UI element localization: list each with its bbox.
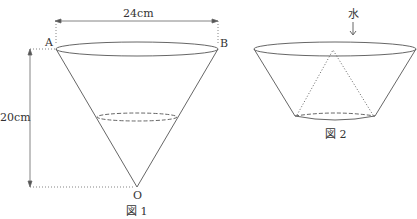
arrowhead-up-icon xyxy=(28,49,32,55)
water-level-ellipse xyxy=(97,113,177,121)
cone-right-side xyxy=(137,49,218,187)
figure1-dimensions xyxy=(28,19,218,187)
frustum-left-side xyxy=(254,49,295,116)
height-label: 20cm xyxy=(0,112,31,123)
frustum-right-side xyxy=(375,49,416,116)
apex-o-label: O xyxy=(133,190,142,201)
frustum-bottom-front xyxy=(295,116,375,120)
water-label: 水 xyxy=(348,9,359,20)
cone-left-side xyxy=(56,49,137,187)
figure2-caption: 図 2 xyxy=(325,129,347,140)
figure1-caption: 図 1 xyxy=(126,206,148,217)
arrowhead-right-icon xyxy=(212,19,218,23)
diagram-canvas xyxy=(0,0,417,219)
arrowhead-down-icon xyxy=(28,181,32,187)
figure2-frustum xyxy=(254,42,416,120)
inner-cone-outline xyxy=(297,50,373,115)
width-label: 24cm xyxy=(123,8,154,19)
water-arrow xyxy=(350,22,356,35)
point-b-label: B xyxy=(220,38,228,49)
point-a-label: A xyxy=(45,37,53,48)
cone-top-rim xyxy=(56,42,218,56)
figure1-cone xyxy=(56,42,218,187)
frustum-bottom-back xyxy=(295,113,375,116)
